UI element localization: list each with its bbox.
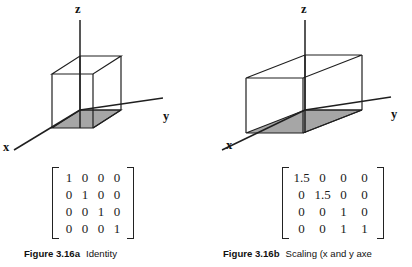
- table-row: 0 1 0 0: [61, 186, 125, 203]
- caption-text: Scaling (x and y axe: [286, 248, 372, 259]
- matrix-bracket-right: [127, 167, 134, 239]
- matrix-cell: 0: [312, 171, 333, 184]
- matrix-bracket-left: [52, 167, 59, 239]
- z-axis-label: z: [301, 3, 307, 16]
- table-row: 0 1.5 0 0: [291, 186, 375, 203]
- y-axis-label: y: [391, 108, 397, 121]
- table-row: 1.5 0 0 0: [291, 169, 375, 186]
- table-row: 1 0 0 0: [61, 169, 125, 186]
- matrix-cell: 0: [354, 205, 375, 218]
- matrix-cell: 0: [77, 205, 93, 218]
- matrix-cell: 1: [354, 222, 375, 235]
- caption-label: Figure 3.16b: [223, 248, 280, 259]
- matrix-grid: 1.5 0 0 0 0 1.5 0 0 0 0 1 0: [289, 167, 377, 239]
- caption-text: Identity: [86, 248, 117, 259]
- table-row: 0 0 0 1: [61, 220, 125, 237]
- matrix-cell: 0: [333, 171, 354, 184]
- matrix-cell: 0: [333, 188, 354, 201]
- matrix-cell: 0: [354, 188, 375, 201]
- x-axis-label: x: [3, 141, 9, 154]
- matrix-cell: 0: [109, 205, 125, 218]
- matrix-cell: 1: [333, 222, 354, 235]
- matrix-cell: 0: [61, 188, 77, 201]
- figure-panel-identity: z y x 1 0 0 0 0 1 0 0 0 0: [0, 0, 206, 267]
- matrix-cell: 0: [61, 205, 77, 218]
- matrix-cell: 0: [291, 222, 312, 235]
- identity-matrix: 1 0 0 0 0 1 0 0 0 0 1 0 0: [52, 167, 134, 239]
- matrix-cell: 0: [109, 171, 125, 184]
- cube-top-face: [246, 55, 362, 78]
- y-axis-label: y: [163, 110, 169, 123]
- matrix-cell: 0: [312, 205, 333, 218]
- matrix-cell: 0: [93, 171, 109, 184]
- matrix-cell: 0: [109, 188, 125, 201]
- matrix-cell: 1: [77, 188, 93, 201]
- matrix-cell: 0: [77, 222, 93, 235]
- z-axis-label: z: [75, 3, 81, 16]
- table-row: 0 0 1 1: [291, 220, 375, 237]
- cube-top-face: [52, 56, 121, 74]
- figure-page: z y x 1 0 0 0 0 1 0 0 0 0: [0, 0, 412, 267]
- matrix-cell: 1: [333, 205, 354, 218]
- matrix-cell: 0: [312, 222, 333, 235]
- scaling-matrix: 1.5 0 0 0 0 1.5 0 0 0 0 1 0: [282, 167, 384, 239]
- x-axis-line: [14, 110, 80, 150]
- table-row: 0 0 1 0: [291, 203, 375, 220]
- matrix-cell: 1: [93, 205, 109, 218]
- matrix-cell: 0: [77, 171, 93, 184]
- figure-panel-scaling: z y x 1.5 0 0 0 0 1.5 0 0 0: [206, 0, 412, 267]
- matrix-cell: 0: [354, 171, 375, 184]
- matrix-cell: 1.5: [291, 171, 312, 184]
- matrix-cell: 1: [109, 222, 125, 235]
- matrix-cell: 0: [61, 222, 77, 235]
- caption-label: Figure 3.16a: [24, 248, 80, 259]
- matrix-bracket-right: [377, 167, 384, 239]
- identity-cube-diagram: [0, 0, 206, 165]
- scaling-box-diagram: [206, 0, 412, 165]
- matrix-cell: 1: [61, 171, 77, 184]
- matrix-cell: 0: [291, 205, 312, 218]
- matrix-cell: 1.5: [312, 188, 333, 201]
- matrix-bracket-left: [282, 167, 289, 239]
- figure-caption-a: Figure 3.16aIdentity: [24, 249, 117, 260]
- table-row: 0 0 1 0: [61, 203, 125, 220]
- matrix-grid: 1 0 0 0 0 1 0 0 0 0 1 0 0: [59, 167, 127, 239]
- cube-bottom-face: [52, 110, 121, 128]
- y-axis-line: [305, 97, 391, 110]
- matrix-cell: 0: [93, 188, 109, 201]
- matrix-cell: 0: [291, 188, 312, 201]
- matrix-cell: 0: [93, 222, 109, 235]
- figure-caption-b: Figure 3.16bScaling (x and y axe: [223, 249, 372, 260]
- x-axis-label: x: [226, 139, 232, 152]
